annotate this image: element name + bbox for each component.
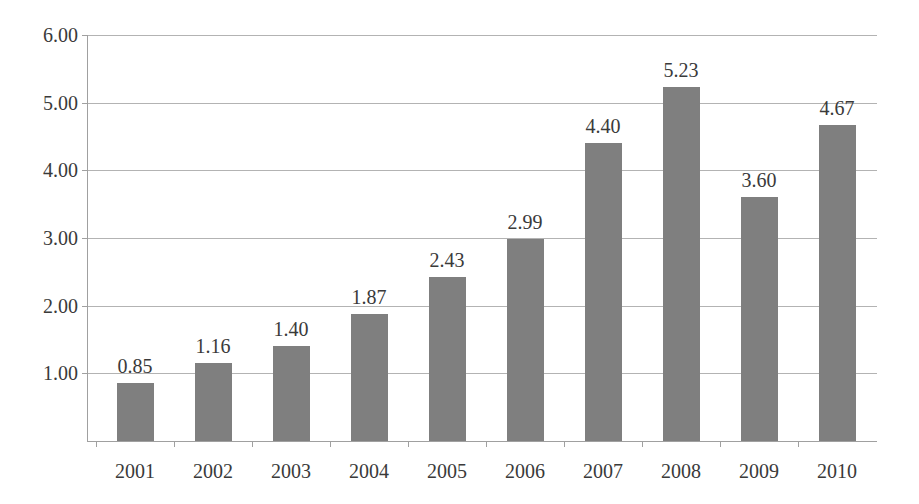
x-axis-tick-mark xyxy=(486,441,487,447)
x-axis-category-label: 2009 xyxy=(719,461,799,481)
bar[interactable] xyxy=(819,125,856,441)
bar-value-label: 1.16 xyxy=(173,336,253,356)
y-axis-tick-label: 2.00 xyxy=(43,296,78,316)
x-axis-tick-mark xyxy=(174,441,175,447)
bar[interactable] xyxy=(663,87,700,441)
x-axis-tick-mark xyxy=(798,441,799,447)
y-axis-tick-mark xyxy=(82,373,88,374)
x-axis-category-label: 2005 xyxy=(407,461,487,481)
bar-value-label: 4.40 xyxy=(563,116,643,136)
gridline xyxy=(87,103,877,104)
bar[interactable] xyxy=(273,346,310,441)
y-axis-tick-label: 3.00 xyxy=(43,228,78,248)
x-axis-category-label: 2001 xyxy=(95,461,175,481)
y-axis-tick-labels: 6.005.004.003.002.001.00 xyxy=(0,0,78,504)
y-axis-tick-mark xyxy=(82,238,88,239)
x-axis-tick-mark xyxy=(720,441,721,447)
x-axis-tick-mark xyxy=(252,441,253,447)
gridline xyxy=(87,35,877,36)
plot-area xyxy=(87,35,877,441)
bar[interactable] xyxy=(195,363,232,441)
bar-value-label: 5.23 xyxy=(641,60,721,80)
x-axis-category-label: 2004 xyxy=(329,461,409,481)
y-axis-tick-label: 5.00 xyxy=(43,93,78,113)
bar[interactable] xyxy=(741,197,778,441)
bar-value-label: 0.85 xyxy=(95,356,175,376)
bar[interactable] xyxy=(117,383,154,441)
bar[interactable] xyxy=(429,277,466,441)
x-axis-category-label: 2002 xyxy=(173,461,253,481)
bar-value-label: 4.67 xyxy=(797,98,877,118)
x-axis-tick-mark xyxy=(96,441,97,447)
x-axis-category-label: 2008 xyxy=(641,461,721,481)
bar-value-label: 1.40 xyxy=(251,319,331,339)
x-axis-category-label: 2003 xyxy=(251,461,331,481)
bar-value-label: 3.60 xyxy=(719,170,799,190)
x-axis-tick-mark xyxy=(330,441,331,447)
x-axis-category-label: 2006 xyxy=(485,461,565,481)
y-axis-tick-label: 1.00 xyxy=(43,363,78,383)
x-axis-tick-mark xyxy=(408,441,409,447)
y-axis-tick-mark xyxy=(82,306,88,307)
y-axis-tick-label: 6.00 xyxy=(43,25,78,45)
x-axis-line xyxy=(87,441,877,442)
bar[interactable] xyxy=(585,143,622,441)
x-axis-category-label: 2010 xyxy=(797,461,877,481)
x-axis-tick-mark xyxy=(564,441,565,447)
bar-chart: 6.005.004.003.002.001.00 0.8520011.16200… xyxy=(0,0,919,504)
bar-value-label: 2.99 xyxy=(485,212,565,232)
bar[interactable] xyxy=(351,314,388,441)
y-axis-tick-mark xyxy=(82,103,88,104)
bar[interactable] xyxy=(507,239,544,441)
y-axis-tick-label: 4.00 xyxy=(43,160,78,180)
x-axis-tick-mark xyxy=(642,441,643,447)
y-axis-tick-mark xyxy=(82,170,88,171)
bar-value-label: 1.87 xyxy=(329,287,409,307)
y-axis-tick-mark xyxy=(82,35,88,36)
bar-value-label: 2.43 xyxy=(407,250,487,270)
x-axis-category-label: 2007 xyxy=(563,461,643,481)
